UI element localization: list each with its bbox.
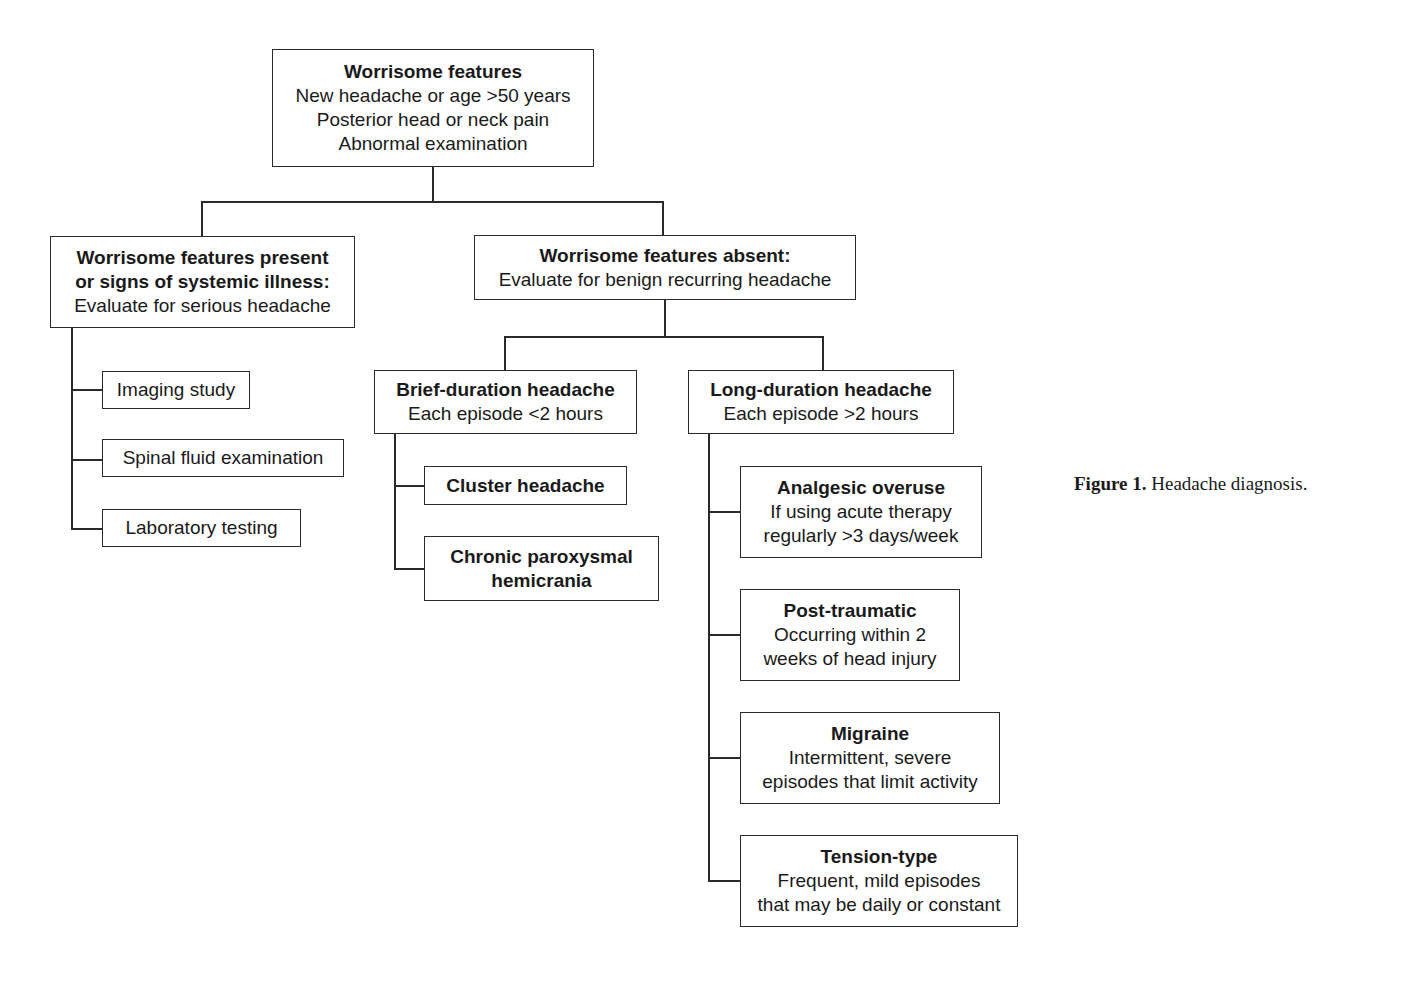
node-cph-title: hemicrania — [491, 569, 591, 593]
connector-to-absent — [662, 201, 664, 236]
node-imaging-label: Imaging study — [117, 378, 235, 402]
connector-to-brief — [504, 336, 506, 371]
connector-migraine — [708, 757, 741, 759]
node-spinal-fluid-examination: Spinal fluid examination — [102, 439, 344, 477]
connector-to-present — [201, 201, 203, 237]
node-brief-duration: Brief-duration headache Each episode <2 … — [374, 370, 637, 434]
root-node-title: Worrisome features — [344, 60, 522, 84]
root-node-criterion: Posterior head or neck pain — [317, 108, 549, 132]
node-cluster-title: Cluster headache — [446, 474, 604, 498]
connector-cph — [394, 568, 425, 570]
node-tension-desc: that may be daily or constant — [758, 893, 1001, 917]
node-posttraumatic-desc: weeks of head injury — [763, 647, 936, 671]
connector-present-trunk — [71, 328, 73, 529]
connector-imaging — [71, 389, 103, 391]
node-present-title: or signs of systemic illness: — [75, 270, 329, 294]
node-long-subtitle: Each episode >2 hours — [724, 402, 919, 426]
node-worrisome-absent: Worrisome features absent: Evaluate for … — [474, 235, 856, 300]
connector-absent-down — [664, 300, 666, 337]
connector-long-trunk — [708, 434, 710, 882]
node-migraine-desc: episodes that limit activity — [762, 770, 977, 794]
node-laboratory-testing: Laboratory testing — [102, 509, 301, 547]
node-migraine-desc: Intermittent, severe — [789, 746, 952, 770]
node-analgesic-overuse: Analgesic overuse If using acute therapy… — [740, 466, 982, 558]
connector-root-split — [201, 201, 664, 203]
node-tension-type: Tension-type Frequent, mild episodes tha… — [740, 835, 1018, 927]
figure-caption-text: Headache diagnosis. — [1146, 473, 1307, 494]
node-worrisome-present: Worrisome features present or signs of s… — [50, 236, 355, 328]
node-post-traumatic: Post-traumatic Occurring within 2 weeks … — [740, 589, 960, 681]
connector-analgesic — [708, 511, 741, 513]
node-migraine-title: Migraine — [831, 722, 909, 746]
node-migraine: Migraine Intermittent, severe episodes t… — [740, 712, 1000, 804]
connector-tension — [708, 880, 741, 882]
node-brief-subtitle: Each episode <2 hours — [408, 402, 603, 426]
connector-absent-split — [504, 336, 824, 338]
figure-caption: Figure 1. Headache diagnosis. — [1074, 473, 1307, 495]
node-tension-title: Tension-type — [821, 845, 938, 869]
connector-spinal — [71, 459, 103, 461]
node-spinal-label: Spinal fluid examination — [123, 446, 324, 470]
root-node-criterion: New headache or age >50 years — [295, 84, 570, 108]
figure-caption-label: Figure 1. — [1074, 473, 1146, 494]
connector-cluster — [394, 485, 425, 487]
node-imaging-study: Imaging study — [102, 371, 250, 409]
node-chronic-paroxysmal-hemicrania: Chronic paroxysmal hemicrania — [424, 536, 659, 601]
node-present-title: Worrisome features present — [76, 246, 328, 270]
connector-to-long — [822, 336, 824, 371]
root-node-worrisome-features: Worrisome features New headache or age >… — [272, 49, 594, 167]
node-long-title: Long-duration headache — [710, 378, 932, 402]
node-analgesic-desc: regularly >3 days/week — [764, 524, 959, 548]
connector-posttraumatic — [708, 634, 741, 636]
node-absent-subtitle: Evaluate for benign recurring headache — [499, 268, 832, 292]
connector-brief-trunk — [394, 434, 396, 569]
node-tension-desc: Frequent, mild episodes — [778, 869, 981, 893]
node-absent-title: Worrisome features absent: — [540, 244, 791, 268]
node-brief-title: Brief-duration headache — [396, 378, 615, 402]
node-lab-label: Laboratory testing — [125, 516, 277, 540]
node-cluster-headache: Cluster headache — [424, 466, 627, 505]
node-present-subtitle: Evaluate for serious headache — [74, 294, 331, 318]
node-cph-title: Chronic paroxysmal — [450, 545, 633, 569]
connector-root-down — [432, 167, 434, 202]
node-posttraumatic-desc: Occurring within 2 — [774, 623, 926, 647]
node-analgesic-desc: If using acute therapy — [770, 500, 952, 524]
node-posttraumatic-title: Post-traumatic — [783, 599, 916, 623]
connector-lab — [71, 528, 103, 530]
root-node-criterion: Abnormal examination — [338, 132, 527, 156]
node-long-duration: Long-duration headache Each episode >2 h… — [688, 370, 954, 434]
node-analgesic-title: Analgesic overuse — [777, 476, 945, 500]
